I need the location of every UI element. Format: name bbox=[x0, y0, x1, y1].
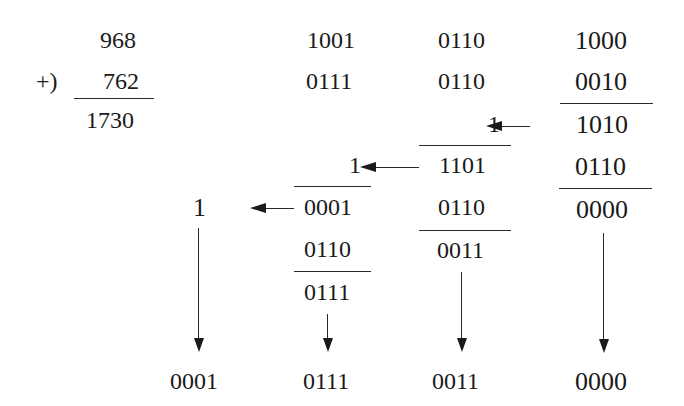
hundreds-corrected: 0111 bbox=[304, 280, 350, 304]
arrow-left-icon bbox=[486, 121, 502, 131]
tens-correction-line bbox=[419, 230, 511, 231]
ones-correction-line bbox=[559, 188, 652, 189]
decimal-operand-1: 968 bbox=[100, 28, 136, 52]
arrow-down-icon bbox=[323, 338, 333, 352]
thousands-down-line bbox=[198, 228, 199, 340]
arrow-down-icon bbox=[194, 338, 204, 352]
decimal-sum-line bbox=[74, 98, 154, 99]
tens-operand-2: 0110 bbox=[438, 69, 485, 93]
tens-result: 0011 bbox=[432, 369, 479, 393]
ones-corrected: 0000 bbox=[576, 197, 628, 223]
ones-operand-1: 1000 bbox=[575, 28, 627, 54]
plus-operator: +) bbox=[36, 69, 58, 93]
tens-partial-sum: 1101 bbox=[439, 153, 486, 177]
arrow-left-icon bbox=[360, 162, 376, 172]
hundreds-operand-2: 0111 bbox=[306, 69, 352, 93]
hundreds-correction-line bbox=[294, 271, 371, 272]
hundreds-partial-sum: 0001 bbox=[304, 195, 352, 219]
ones-operand-2: 0010 bbox=[575, 69, 627, 95]
hundreds-operand-1: 1001 bbox=[307, 28, 355, 52]
tens-correction: 0110 bbox=[438, 195, 485, 219]
decimal-sum: 1730 bbox=[86, 108, 134, 132]
thousands-carry: 1 bbox=[193, 195, 206, 221]
thousands-result: 0001 bbox=[170, 369, 218, 393]
tens-operand-1: 0110 bbox=[438, 28, 485, 52]
arrow-down-icon bbox=[599, 339, 609, 353]
hundreds-correction: 0110 bbox=[304, 237, 351, 261]
carry-arrow-line bbox=[264, 208, 294, 209]
ones-down-line bbox=[603, 233, 604, 341]
hundreds-down-line bbox=[327, 314, 328, 340]
hundreds-sum-line bbox=[294, 186, 371, 187]
ones-correction: 0110 bbox=[575, 154, 626, 180]
carry-arrow-line bbox=[500, 126, 530, 127]
ones-result: 0000 bbox=[575, 369, 627, 395]
hundreds-result: 0111 bbox=[303, 369, 349, 393]
tens-down-line bbox=[461, 272, 462, 340]
arrow-left-icon bbox=[250, 203, 266, 213]
carry-arrow-line bbox=[375, 167, 419, 168]
tens-corrected: 0011 bbox=[437, 238, 484, 262]
ones-partial-sum: 1010 bbox=[576, 112, 628, 138]
arrow-down-icon bbox=[457, 338, 467, 352]
tens-sum-line bbox=[419, 145, 511, 146]
decimal-operand-2: 762 bbox=[103, 69, 139, 93]
ones-sum-line bbox=[560, 103, 653, 104]
